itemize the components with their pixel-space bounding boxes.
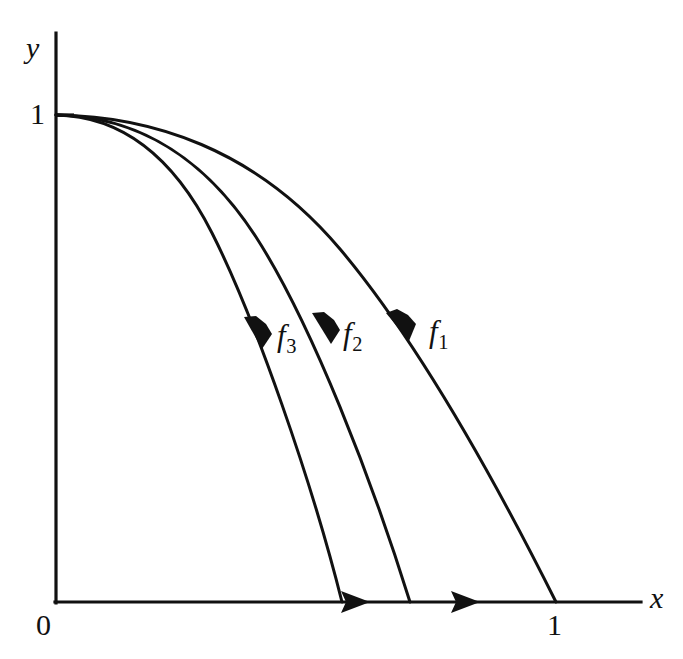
curve-label-f3-name: f [277, 318, 286, 353]
direction-arrowhead-f1 [386, 309, 416, 341]
curve-f2 [56, 115, 410, 602]
y-axis-tick-label-1: 1 [30, 99, 45, 129]
y-axis-label: y [26, 33, 39, 63]
curve-label-f2-subscript: 2 [352, 333, 362, 355]
direction-arrowhead-f2 [312, 312, 340, 344]
curve-f3 [56, 115, 342, 602]
curve-f1 [56, 115, 556, 602]
curve-label-f1-name: f [429, 314, 438, 349]
curve-label-f3-subscript: 3 [286, 335, 296, 357]
curve-label-f1: f1 [429, 316, 448, 352]
x-axis-tick-label-1: 1 [547, 610, 562, 640]
curve-label-f3: f3 [277, 320, 296, 356]
figure-canvas: y 1 0 1 x f3 f2 f1 [0, 0, 683, 659]
direction-arrowhead-f3 [244, 316, 272, 349]
x-axis-label: x [650, 583, 663, 613]
figure-vector-layer [0, 0, 683, 659]
origin-label: 0 [36, 610, 51, 640]
curve-label-f2: f2 [343, 318, 362, 354]
curve-label-f2-name: f [343, 316, 352, 351]
curve-label-f1-subscript: 1 [438, 331, 448, 353]
